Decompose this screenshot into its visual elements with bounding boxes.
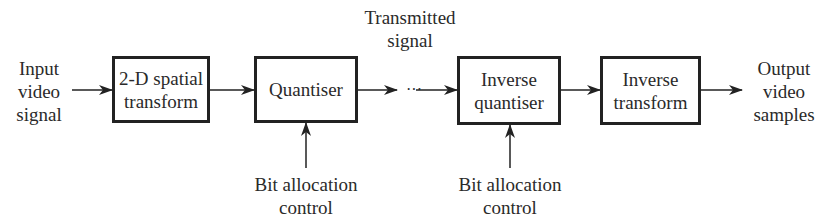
block-label: Quantiser — [269, 78, 343, 101]
input-video-signal-label: Input video signal — [6, 57, 72, 126]
bit-allocation-control-label-decoder: Bit allocation control — [440, 173, 580, 219]
output-video-samples-label: Output video samples — [740, 57, 828, 126]
block-label: Inverse transform — [614, 68, 688, 114]
block-inverse-transform: Inverse transform — [600, 56, 701, 125]
block-2d-spatial-transform: 2-D spatial transform — [112, 56, 210, 123]
channel-ellipsis: ··· — [406, 78, 420, 101]
block-quantiser: Quantiser — [254, 56, 358, 123]
video-coding-block-diagram: ··· Input video signal Output video samp… — [0, 0, 828, 222]
block-label: 2-D spatial transform — [119, 67, 203, 113]
block-inverse-quantiser: Inverse quantiser — [457, 56, 561, 125]
bit-allocation-control-label-encoder: Bit allocation control — [236, 173, 376, 219]
block-label: Inverse quantiser — [474, 68, 544, 114]
transmitted-signal-label: Transmitted signal — [350, 6, 470, 52]
